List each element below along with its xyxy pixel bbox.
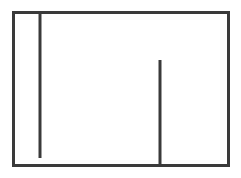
diagram-canvas [0,0,241,178]
line-diagram [0,0,241,178]
canvas-background [0,0,241,178]
